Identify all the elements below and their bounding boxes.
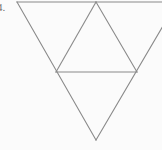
inner-left-edge-line [56,2,96,72]
outer-right-edge-line [96,2,162,140]
geometry-figure: 4. [0,0,162,150]
inner-right-edge-line [96,2,137,72]
triangle-diagram-svg [0,0,162,150]
